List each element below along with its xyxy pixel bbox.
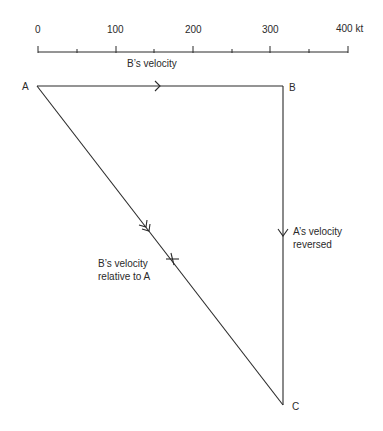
bc-label-line1: A’s velocity	[293, 226, 342, 238]
scale-label-300: 300	[262, 24, 279, 36]
velocity-triangle-diagram	[0, 0, 383, 431]
ac-label-line2: relative to A	[98, 271, 150, 283]
ac-label-line1: B’s velocity	[98, 258, 148, 270]
point-label-b: B	[289, 82, 296, 94]
point-label-c: C	[292, 401, 299, 413]
scale-label-400: 400 kt	[336, 23, 363, 35]
scale-bar	[38, 46, 348, 53]
point-label-a: A	[22, 81, 29, 93]
scale-label-200: 200	[185, 24, 202, 36]
triangle	[37, 81, 288, 405]
scale-caption: B’s velocity	[127, 58, 177, 70]
scale-label-0: 0	[35, 24, 41, 36]
line-ac	[37, 86, 283, 405]
cross-mark-icon	[166, 253, 179, 265]
scale-label-100: 100	[107, 24, 124, 36]
bc-label-line2: reversed	[293, 239, 332, 251]
